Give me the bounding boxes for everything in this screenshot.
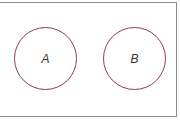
- set-a-label: A: [41, 52, 49, 66]
- set-a-circle: A: [14, 27, 77, 90]
- set-b-circle: B: [103, 27, 166, 90]
- set-b-label: B: [130, 52, 138, 66]
